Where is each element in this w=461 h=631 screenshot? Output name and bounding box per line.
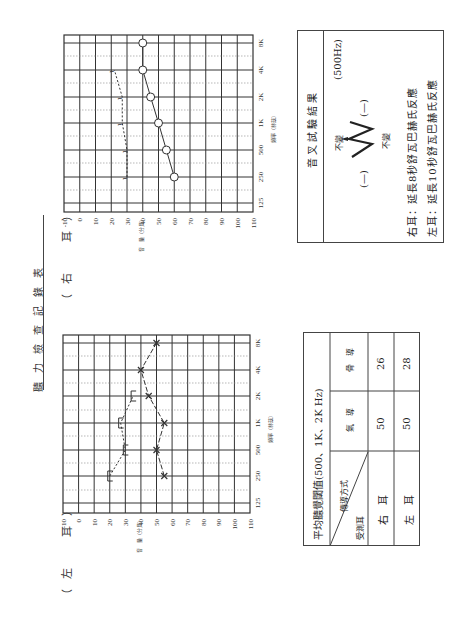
svg-text:1K: 1K	[257, 119, 265, 128]
svg-text:500: 500	[254, 444, 262, 455]
svg-text:110: 110	[247, 519, 255, 530]
pta-row-left-ear: 左 耳	[401, 495, 416, 525]
svg-text:110: 110	[250, 218, 258, 229]
svg-text:60: 60	[171, 218, 179, 226]
right-ear-rinne-result: 右耳：延長8秒舒瓦巴赫氏反應	[404, 87, 419, 237]
svg-text:音 量（分貝）: 音 量（分貝）	[136, 518, 143, 553]
pta-table-title: 平均聽覺閾值(500、1K、2K Hz)	[310, 388, 325, 540]
svg-text:0: 0	[76, 218, 84, 222]
weber-right-note: 不變	[380, 133, 391, 149]
svg-text:8K: 8K	[254, 339, 262, 348]
svg-text:100: 100	[234, 218, 242, 229]
pta-row-left-air: 50	[401, 417, 412, 430]
svg-text:ɩ: ɩ	[115, 123, 124, 126]
svg-text:50: 50	[153, 519, 161, 527]
svg-text:20: 20	[108, 218, 116, 226]
svg-text:1K: 1K	[254, 419, 262, 428]
weber-left-note: 不變	[333, 135, 344, 151]
svg-text:30: 30	[124, 218, 132, 226]
pta-corner-top: 傳導方式	[338, 480, 349, 512]
svg-text:20: 20	[106, 519, 114, 527]
svg-text:50: 50	[155, 218, 163, 226]
svg-text:8K: 8K	[257, 39, 265, 48]
pta-row-right-bone: 26	[375, 357, 386, 370]
svg-text:70: 70	[184, 519, 192, 527]
svg-text:ɩ: ɩ	[115, 97, 124, 100]
svg-text:60: 60	[169, 519, 177, 527]
svg-text:2K: 2K	[254, 392, 262, 401]
svg-text:ɩ: ɩ	[107, 70, 116, 73]
tuning-fork-title: 音叉試驗結果	[304, 90, 319, 168]
tuning-fork-box	[297, 30, 444, 243]
svg-text:80: 80	[200, 519, 208, 527]
left-ear-audiogram: -1001020304050607080901001101252505001K2…	[60, 335, 275, 553]
svg-text:-10: -10	[61, 218, 69, 228]
pta-col-bone: 骨 導	[344, 348, 355, 372]
weber-left-result: (—)	[358, 170, 369, 188]
svg-text:250: 250	[257, 171, 265, 182]
svg-text:70: 70	[187, 218, 195, 226]
svg-text:125: 125	[257, 197, 265, 208]
weber-right-result: (—)	[358, 99, 369, 117]
svg-text:30: 30	[122, 519, 130, 527]
right-ear-audiogram: -1001020304050607080901001101252505001K2…	[61, 35, 278, 252]
svg-text:頻率（赫茲）: 頻率（赫茲）	[270, 113, 277, 143]
svg-text:-10: -10	[60, 519, 68, 529]
pta-col-air: 氣 導	[344, 408, 355, 432]
pta-row-right-ear: 右 耳	[375, 495, 390, 525]
svg-text:125: 125	[254, 497, 262, 508]
svg-text:ɩ: ɩ	[120, 150, 129, 153]
pta-corner-bottom: 受測耳	[354, 516, 365, 540]
svg-text:ɩ: ɩ	[120, 177, 129, 180]
svg-text:90: 90	[215, 519, 223, 527]
svg-text:80: 80	[202, 218, 210, 226]
svg-text:4K: 4K	[254, 366, 262, 375]
svg-text:0: 0	[75, 519, 83, 523]
svg-text:10: 10	[91, 519, 99, 527]
svg-text:4K: 4K	[257, 66, 265, 75]
svg-text:2K: 2K	[257, 93, 265, 102]
svg-text:250: 250	[254, 470, 262, 481]
tuning-fork-frequency: (500Hz)	[332, 39, 343, 80]
svg-text:100: 100	[231, 519, 239, 530]
svg-text:10: 10	[92, 218, 100, 226]
pta-row-right-air: 50	[375, 417, 386, 430]
svg-text:500: 500	[257, 144, 265, 155]
svg-text:90: 90	[218, 218, 226, 226]
left-ear-rinne-result: 左耳：延長10秒舒瓦巴赫氏反應	[424, 79, 439, 237]
tuning-fork-divider	[323, 31, 324, 242]
pta-row-left-bone: 28	[401, 357, 412, 370]
svg-text:音 量（分貝）: 音 量（分貝）	[138, 217, 145, 252]
svg-text:頻率（赫茲）: 頻率（赫茲）	[267, 413, 274, 443]
